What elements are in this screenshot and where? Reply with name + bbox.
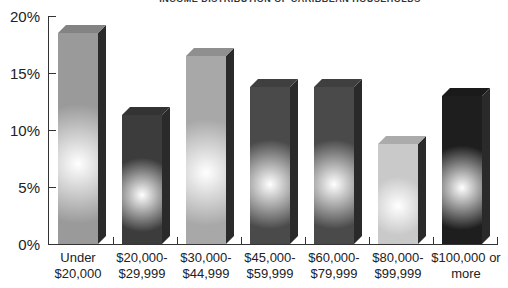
- bar: [122, 115, 170, 244]
- bar-top: [314, 79, 362, 87]
- x-tick: [241, 237, 242, 244]
- bar-top: [186, 48, 234, 56]
- x-tick: [305, 237, 306, 244]
- bar: [186, 56, 234, 244]
- y-tick: [48, 130, 56, 131]
- bar-side: [162, 107, 170, 244]
- chart-title: INCOME DISTRIBUTION OF CARIBBEAN HOUSEHO…: [140, 0, 440, 4]
- bar-front: [58, 33, 98, 244]
- y-tick: [48, 16, 56, 17]
- bar-side: [290, 79, 298, 244]
- bar-front: [442, 96, 482, 244]
- y-tick-label-10: 10%: [2, 122, 40, 139]
- x-label: $45,000-$59,999: [237, 250, 303, 282]
- y-tick-label-0: 0%: [2, 236, 40, 253]
- x-tick: [433, 237, 434, 244]
- bar-top: [58, 25, 106, 33]
- x-label: $100,000 ormore: [429, 250, 503, 282]
- bar-front: [250, 87, 290, 244]
- bar-front: [122, 115, 162, 244]
- x-axis: [48, 244, 498, 245]
- y-tick: [48, 73, 56, 74]
- bar: [442, 96, 490, 244]
- y-tick-label-20: 20%: [2, 8, 40, 25]
- y-tick: [48, 187, 56, 188]
- x-label: $60,000-$79,999: [301, 250, 367, 282]
- bar-side: [354, 79, 362, 244]
- x-label: $80,000-$99,999: [365, 250, 431, 282]
- y-tick-label-5: 5%: [2, 179, 40, 196]
- y-tick-label-15: 15%: [2, 65, 40, 82]
- bar: [314, 87, 362, 244]
- bar-front: [314, 87, 354, 244]
- bar-top: [122, 107, 170, 115]
- bar-front: [186, 56, 226, 244]
- bar-side: [482, 88, 490, 244]
- bar-side: [226, 48, 234, 244]
- x-label: Under$20,000: [45, 250, 111, 282]
- x-tick: [113, 237, 114, 244]
- x-label: $20,000-$29,999: [109, 250, 175, 282]
- x-tick: [369, 237, 370, 244]
- bar-top: [250, 79, 298, 87]
- bar: [250, 87, 298, 244]
- bar: [378, 144, 426, 244]
- bar-side: [98, 25, 106, 244]
- bar-front: [378, 144, 418, 244]
- bar-side: [418, 136, 426, 244]
- bar: [58, 33, 106, 244]
- x-tick: [497, 237, 498, 244]
- x-label: $30,000-$44,999: [173, 250, 239, 282]
- bar-top: [442, 88, 490, 96]
- bar-top: [378, 136, 426, 144]
- x-tick: [177, 237, 178, 244]
